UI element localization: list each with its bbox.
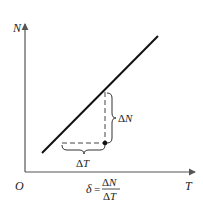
delta-n-brace: [107, 93, 116, 143]
formula-equals: =: [94, 183, 100, 195]
formula-lhs: δ: [86, 182, 92, 196]
delta-t-label: ΔT: [76, 157, 90, 169]
slope-formula: δ = ΔN ΔT: [86, 176, 120, 202]
delta-t-brace: [62, 145, 105, 154]
x-axis-label: T: [185, 179, 193, 193]
delta-n-label: ΔN: [118, 112, 133, 124]
origin-label: O: [15, 179, 24, 193]
formula-numerator: ΔN: [102, 176, 117, 188]
y-axis-label: N: [12, 21, 22, 35]
slope-diagram: N T O ΔN ΔT δ = ΔN ΔT: [0, 0, 203, 212]
corner-point: [103, 141, 108, 146]
formula-denominator: ΔT: [103, 190, 117, 202]
linear-relationship-line: [42, 36, 158, 153]
